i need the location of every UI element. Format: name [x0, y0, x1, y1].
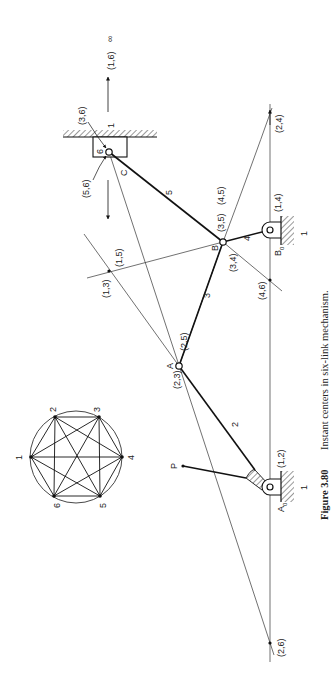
circle-node-2: [53, 415, 57, 419]
label-ic23: (2,3): [172, 370, 182, 389]
label-ic15: (1,5): [114, 248, 124, 267]
label-link4: 4: [242, 236, 252, 241]
pivot-c: [106, 149, 112, 155]
label-a0-ground-1: 1: [299, 485, 309, 490]
circle-node-label-6: 6: [52, 503, 62, 508]
link-2-arm-to-p: [183, 466, 246, 478]
circle-edge-3-6: [54, 417, 99, 496]
point-p-dot: [181, 464, 184, 467]
label-b0-ground-1: 1: [299, 231, 309, 236]
label-link5: 5: [164, 190, 174, 195]
label-infinity: ∞: [105, 36, 115, 42]
circle-node-3: [97, 415, 101, 419]
label-a0: A 0: [276, 502, 288, 512]
label-ic14: (1,4): [273, 193, 283, 212]
circle-edge-3-5: [99, 417, 100, 496]
a0-pivot: [267, 484, 273, 490]
label-ic46: (4,6): [257, 281, 267, 300]
label-b: B: [210, 245, 220, 251]
pivot-b: [220, 239, 226, 245]
figure-caption: Figure 3.80 Instant centers in six-link …: [319, 290, 330, 520]
label-link3: 3: [202, 293, 212, 298]
mechanism-links: [109, 152, 270, 490]
circle-edges: [31, 417, 122, 496]
circle-edge-3-4: [99, 417, 122, 457]
label-a0-subscript: 0: [282, 502, 288, 506]
circle-node-label-1: 1: [14, 455, 24, 460]
label-ic16: (1,6): [106, 51, 116, 70]
slider-ground: [63, 130, 157, 137]
label-ic13: (1,3): [101, 279, 111, 298]
label-ic56: (5,6): [81, 179, 91, 198]
label-ic45: (4,5): [216, 186, 226, 205]
link-5: [109, 152, 223, 242]
label-ic34: (3,4): [228, 253, 238, 272]
instant-center-circle-diagram: 1 2 3 4 5 6: [14, 407, 136, 508]
circle-node-1: [29, 455, 33, 459]
circle-node-label-3: 3: [92, 407, 102, 412]
a0-ground-hatch: [281, 471, 294, 502]
label-ic35: (3,5): [216, 213, 226, 232]
line-b-15: [87, 242, 223, 278]
link-2-bar: [179, 366, 255, 470]
circle-node-label-2: 2: [48, 407, 58, 412]
b0-pivot: [267, 227, 273, 233]
circle-node-label-5: 5: [98, 503, 108, 508]
ic-46-dot: [268, 278, 271, 281]
circle-node-6: [52, 494, 56, 498]
ic-26-dot: [268, 641, 271, 644]
circle-node-4: [120, 455, 124, 459]
caption-text: Instant centers in six-link mechanism.: [319, 290, 330, 450]
label-ic24: (2,4): [274, 114, 284, 133]
label-p: P: [169, 463, 179, 469]
label-ic25: (2,5): [179, 332, 189, 351]
label-ic36: (3,6): [77, 106, 87, 125]
b0-ground-hatch: [281, 216, 294, 245]
ground-pivot-b0: [262, 216, 294, 245]
label-link2: 2: [230, 422, 240, 427]
circle-node-label-4: 4: [126, 455, 136, 460]
ground-pivot-a0: [262, 471, 294, 502]
six-link-mechanism-diagram: 1 2 3 4 5 6: [0, 0, 335, 696]
construction-lines: [84, 104, 282, 662]
ic-13-15-dot: [107, 269, 110, 272]
label-ic12: (1,2): [276, 449, 286, 468]
label-c: C: [119, 169, 129, 176]
line-13-a: [84, 234, 179, 366]
line-c-a-26: [109, 152, 274, 655]
label-slider-ground-1: 1: [106, 123, 116, 128]
circle-edge-4-6: [54, 457, 122, 496]
labels: (1,6) ∞ 1 (3,6) 6 (5,6) C 5 (3,5) (4,5) …: [77, 36, 309, 657]
label-b0-subscript: 0: [279, 246, 285, 250]
label-link6: 6: [95, 149, 105, 154]
circle-edge-2-6: [54, 417, 55, 496]
arrow-56: [93, 156, 106, 180]
label-ic26: (2,6): [276, 638, 286, 657]
label-a: A: [165, 363, 175, 369]
circle-edge-2-5: [55, 417, 100, 496]
label-b0: B 0: [273, 246, 285, 256]
slider-ground-hatch: [63, 130, 157, 137]
caption-figure-number: Figure 3.80: [319, 469, 330, 520]
pivot-a: [176, 363, 182, 369]
circle-node-5: [98, 494, 102, 498]
